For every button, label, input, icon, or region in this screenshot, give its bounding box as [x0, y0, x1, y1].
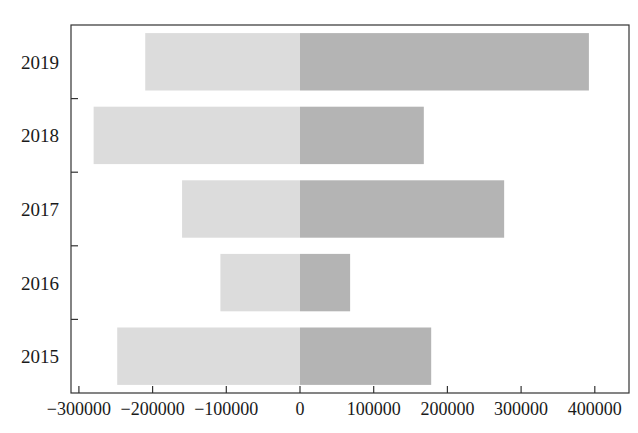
y-tick-label: 2016	[21, 273, 59, 294]
y-tick-label: 2017	[21, 199, 59, 220]
x-tick-label: 300000	[494, 399, 548, 419]
bar-positive-2015	[300, 327, 431, 384]
y-tick-label: 2018	[21, 125, 59, 146]
x-tick-label: −300000	[47, 399, 111, 419]
bar-positive-2019	[300, 33, 589, 90]
x-tick-label: −200000	[121, 399, 185, 419]
y-tick-label: 2015	[21, 346, 59, 367]
bar-negative-2015	[117, 327, 300, 384]
bar-positive-2018	[300, 107, 424, 164]
y-tick-label: 2019	[21, 52, 59, 73]
x-tick-label: 400000	[568, 399, 622, 419]
x-tick-label: 0	[296, 399, 305, 419]
bar-positive-2016	[300, 254, 350, 311]
x-tick-label: −100000	[194, 399, 258, 419]
bar-positive-2017	[300, 180, 504, 237]
diverging-bar-chart: 20152016201720182019−300000−200000−10000…	[0, 0, 638, 433]
x-tick-label: 200000	[420, 399, 474, 419]
bar-negative-2019	[145, 33, 300, 90]
bar-negative-2016	[220, 254, 300, 311]
bar-negative-2018	[94, 107, 300, 164]
bar-negative-2017	[182, 180, 300, 237]
x-tick-label: 100000	[347, 399, 401, 419]
chart-canvas: 20152016201720182019−300000−200000−10000…	[0, 0, 638, 433]
